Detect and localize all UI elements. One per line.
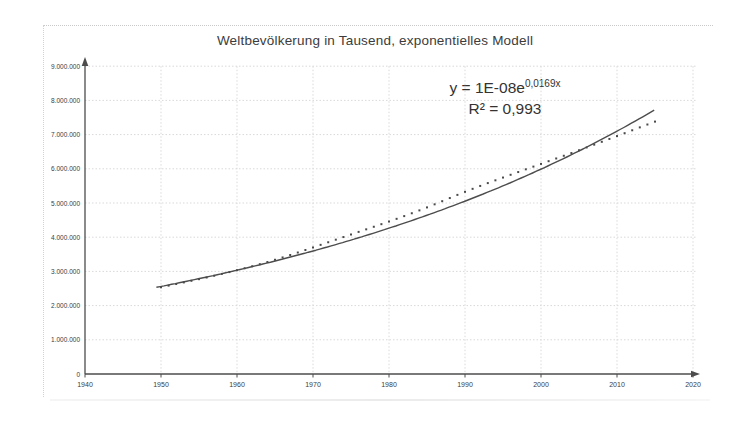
data-point [312,246,314,248]
x-tick-label: 1950 [153,381,169,388]
data-point [183,281,185,283]
scanned-chart-page: Weltbevölkerung in Tausend, exponentiell… [0,0,744,422]
data-point [532,166,534,168]
data-point [464,191,466,193]
data-point [456,194,458,196]
data-point [358,231,360,233]
data-point [548,160,550,162]
data-point [373,226,375,228]
data-point [259,263,261,265]
y-tick-label: 1.000.000 [51,336,80,343]
data-point [608,138,610,140]
data-point [342,236,344,238]
y-tick-label: 6.000.000 [51,165,80,172]
x-tick-label: 1970 [305,381,321,388]
y-tick-label: 4.000.000 [51,234,80,241]
data-point [206,276,208,278]
data-point [297,252,299,254]
data-point [639,126,641,128]
x-tick-label: 1940 [77,381,93,388]
data-point [540,163,542,165]
data-point [441,200,443,202]
data-point [221,273,223,275]
data-point [160,286,162,288]
y-tick-label: 9.000.000 [51,63,80,70]
data-point [646,124,648,126]
x-tick-label: 2020 [685,381,701,388]
data-point [228,271,230,273]
data-point [525,168,527,170]
data-point [487,182,489,184]
data-point [380,223,382,225]
data-point [563,155,565,157]
data-point [198,278,200,280]
data-point [244,267,246,269]
data-point [418,209,420,211]
data-point [472,188,474,190]
x-axis-arrow-icon [691,371,700,378]
data-point [213,275,215,277]
data-point [304,249,306,251]
y-tick-label: 3.000.000 [51,268,80,275]
data-point [350,233,352,235]
data-point [586,146,588,148]
data-point [266,261,268,263]
data-point [631,129,633,131]
data-point [251,265,253,267]
data-point [274,259,276,261]
data-point [396,218,398,220]
data-point [479,185,481,187]
data-point [411,212,413,214]
y-axis-arrow-icon [82,57,89,66]
data-point [335,239,337,241]
x-tick-label: 1960 [229,381,245,388]
x-tick-label: 2000 [533,381,549,388]
data-point [403,215,405,217]
y-tick-label: 0 [76,371,80,378]
data-point [510,174,512,176]
data-point [624,132,626,134]
y-tick-label: 8.000.000 [51,97,80,104]
data-point [426,206,428,208]
data-point [365,228,367,230]
data-point [168,285,170,287]
trendline-curve [156,110,654,287]
data-point [327,241,329,243]
x-tick-label: 1990 [457,381,473,388]
data-point [289,254,291,256]
data-point [570,152,572,154]
x-tick-label: 2010 [609,381,625,388]
data-point [282,256,284,258]
data-point [175,283,177,285]
data-point [236,269,238,271]
data-point [578,149,580,151]
data-point [654,121,656,123]
data-point [616,135,618,137]
y-tick-label: 5.000.000 [51,200,80,207]
data-point [190,280,192,282]
data-point [502,177,504,179]
data-point [449,197,451,199]
data-point [494,179,496,181]
data-point [601,141,603,143]
data-point [388,221,390,223]
data-point [517,171,519,173]
data-point [593,144,595,146]
x-tick-label: 1980 [381,381,397,388]
data-point [320,244,322,246]
y-tick-label: 7.000.000 [51,131,80,138]
data-point [555,157,557,159]
y-tick-label: 2.000.000 [51,302,80,309]
chart-plot: 19401950196019701980199020002010202001.0… [0,0,744,422]
data-point [434,203,436,205]
